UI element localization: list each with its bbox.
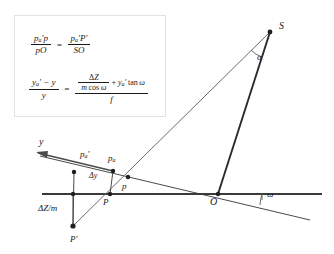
point-pa-prime-dot [72,170,76,174]
label-point-p-capital: P [103,198,109,207]
formula-1-rhs-num-prime: ′ [78,33,80,43]
point-P-cap-dot [108,192,112,196]
formula-1-lhs-denominator: pO [31,45,51,56]
formula-2-rhs-fraction: ΔZ m cos ω + ya′ tan ω f [75,73,148,104]
point-p-small-dot [126,175,130,179]
formula-2-inner-fraction: ΔZ m cos ω [78,73,109,93]
formula-2-equals: = [61,84,73,94]
formula-1-lhs-numerator: pa′p [31,33,51,45]
formula-box: pa′p pO = pa′P′ SO ya′ − y y = ΔZ m cos … [14,15,166,117]
formula-2-rhs-denominator: f [75,94,148,105]
formula-2-inner-denominator: m cos ω [78,83,109,92]
segment-pa-to-p-cap [110,171,113,194]
formula-2-plus-prime: ′ [125,78,127,87]
label-angle-omega: ω [267,190,273,199]
formula-1-lhs-fraction: pa′p pO [31,33,51,56]
label-point-p-small: p [122,182,127,191]
label-point-pa-prime: pa′ [80,150,89,159]
formula-2-lhs-fraction: ya′ − y y [29,77,59,100]
label-delta-y: Δy [89,172,97,180]
figure-canvas: S α ω y pa′ pa p P O Δy ΔZ/m P′ pa′p pO … [0,0,334,254]
label-point-s: S [279,21,284,31]
tilted-axis-line [40,156,310,220]
label-point-pa: pa [108,154,116,163]
formula-2-lhs-denominator: y [29,90,59,101]
formula-ratio-similar-triangles: pa′p pO = pa′P′ SO [31,33,90,56]
formula-2-lhs-prime: ′ [39,77,41,87]
formula-2-plus-term: + ya′ tan ω [109,78,145,87]
label-angle-alpha: α [257,53,262,62]
formula-1-rhs-denominator: SO [68,45,91,56]
point-pa-dot [111,169,115,173]
formula-1-rhs-numerator: pa′P′ [68,33,91,45]
label-point-o: O [210,197,217,207]
formula-2-lhs-numerator: ya′ − y [29,77,59,89]
point-S-dot [268,30,273,35]
formula-2-rhs-numerator: ΔZ m cos ω + ya′ tan ω [75,73,148,94]
label-pa-subscript: a [113,157,116,163]
formula-2-inner-numerator: ΔZ [78,73,109,83]
y-axis-arrow-shaft [38,153,113,171]
label-y-axis: y [39,137,43,147]
point-vertical-foot-dot [71,192,75,196]
formula-relative-displacement: ya′ − y y = ΔZ m cos ω + ya′ tan ω f [29,73,148,104]
formula-1-rhs-fraction: pa′P′ SO [68,33,91,56]
label-delta-z-over-m: ΔZ/m [38,204,57,213]
formula-1-rhs-num-prime2: ′ [86,33,88,43]
formula-1-lhs-num-prime: ′ [42,33,44,43]
label-pa-prime-mark: ′ [88,149,90,159]
label-point-p-prime: P′ [70,235,77,244]
line-s-to-o [218,32,270,194]
point-P-prime-dot [70,223,75,228]
formula-1-equals: = [53,40,65,50]
